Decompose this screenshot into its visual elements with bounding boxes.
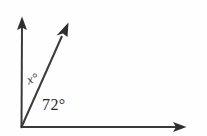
angle-diagram: x° 72° [0, 0, 207, 136]
known-angle-label: 72° [42, 97, 66, 113]
vertical-ray-line [22, 27, 23, 127]
angle-diagram-canvas [0, 0, 207, 136]
diagonal-ray-arrowhead [57, 23, 69, 38]
angle-vertex [20, 126, 22, 128]
